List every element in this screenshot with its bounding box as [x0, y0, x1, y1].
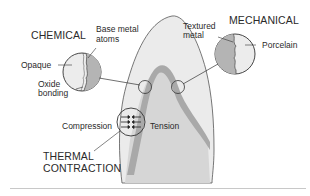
mechanical-metal-region [215, 34, 236, 74]
oxide-label-2: bonding [38, 89, 68, 98]
bottom-divider [10, 188, 306, 189]
thermal-title-1: THERMAL [43, 151, 94, 162]
opaque-label: Opaque [21, 61, 51, 70]
porcelain-metal-bonding-diagram: CHEMICAL Base metal atoms Opaque Oxide b… [0, 0, 310, 196]
base-metal-label-2: atoms [96, 35, 119, 44]
thermal-title-2: CONTRACTION [43, 163, 121, 174]
chemical-title: CHEMICAL [31, 30, 86, 41]
mechanical-title: MECHANICAL [229, 15, 299, 26]
porcelain-label: Porcelain [262, 41, 297, 50]
textured-label-2: metal [183, 31, 204, 40]
base-metal-label-1: Base metal [96, 25, 139, 34]
tension-label: Tension [150, 122, 179, 131]
thermal-leader [94, 131, 120, 151]
compression-label: Compression [62, 122, 112, 131]
